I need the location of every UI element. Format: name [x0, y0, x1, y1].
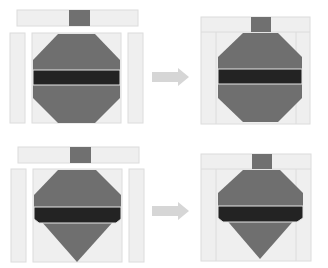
left-side-strip — [11, 169, 26, 262]
dark-band — [33, 70, 120, 85]
right-side-strip — [128, 33, 143, 123]
arrow-icon — [152, 68, 189, 86]
row-2-exploded-block — [11, 147, 144, 262]
hanger-square — [70, 147, 91, 163]
dark-band — [34, 207, 121, 223]
row-1-exploded-block — [10, 10, 143, 123]
hanger-square — [252, 154, 272, 169]
quilt-assembly-diagram — [0, 0, 328, 268]
hanger-square — [251, 17, 271, 32]
hanger-square — [69, 10, 90, 26]
row-1-assembled-block — [201, 17, 310, 124]
arrow-icon — [152, 202, 189, 220]
row-2-assembled-block — [201, 154, 311, 261]
dark-band — [218, 69, 302, 84]
left-side-strip — [10, 33, 25, 123]
right-side-strip — [129, 169, 144, 262]
dark-band — [218, 206, 303, 222]
